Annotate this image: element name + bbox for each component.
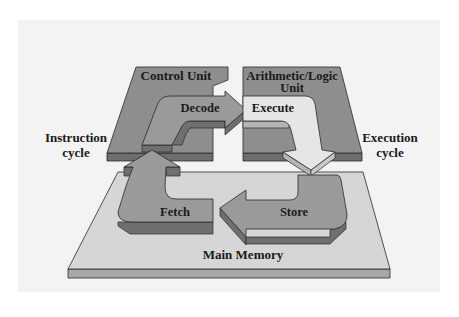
machine-cycle-diagram: Control Unit Arithmetic/Logic Unit Decod… bbox=[0, 0, 459, 317]
alu-label-line2: Unit bbox=[280, 81, 304, 95]
decode-label: Decode bbox=[181, 101, 220, 115]
store-label: Store bbox=[280, 205, 309, 219]
execute-label: Execute bbox=[252, 101, 295, 115]
control-unit-label: Control Unit bbox=[141, 68, 213, 83]
execution-cycle-label-line1: Execution bbox=[362, 130, 418, 145]
execution-cycle-label-line2: cycle bbox=[376, 145, 404, 160]
instruction-cycle-label-line2: cycle bbox=[62, 145, 90, 160]
instruction-cycle-label-line1: Instruction bbox=[45, 130, 108, 145]
fetch-label: Fetch bbox=[160, 205, 190, 219]
main-memory-label: Main Memory bbox=[203, 247, 284, 262]
